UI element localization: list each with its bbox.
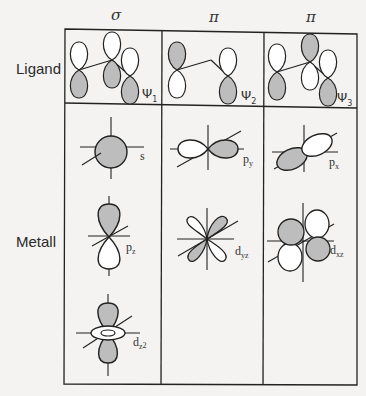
ligand-label-psi2: Ψ2 (241, 88, 256, 106)
ligand-label-psi3: Ψ3 (337, 90, 352, 108)
metal-s-orbital (80, 117, 144, 179)
orbital-label-px: px (329, 155, 339, 171)
orbital-label-s: s (140, 149, 145, 164)
orbital-label-dxz: dxz (330, 243, 344, 259)
metal-dyz-orbital (177, 208, 238, 270)
ligand-psi3-orbital (268, 34, 336, 106)
metal-dz2-orbital (76, 294, 140, 376)
metal-py-orbital (170, 125, 244, 170)
orbital-label-dz2: dz2 (133, 335, 147, 351)
orbital-diagram: Ligand Metall σ π π (0, 0, 366, 396)
metal-dxz-orbital (267, 203, 334, 282)
ligand-psi1-orbital (70, 32, 138, 104)
orbital-table (0, 0, 366, 396)
orbital-label-pz: pz (126, 240, 136, 256)
orbital-label-py: py (243, 152, 253, 168)
ligand-psi2-orbital (168, 42, 236, 104)
orbital-label-dyz: dyz (235, 244, 249, 260)
metal-pz-orbital (88, 196, 130, 276)
ligand-label-psi1: Ψ1 (142, 86, 157, 104)
